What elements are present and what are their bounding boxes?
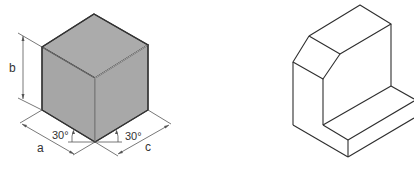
- dimension-b: b: [9, 33, 42, 110]
- isometric-cube: [42, 14, 148, 142]
- drawing-canvas: b a c 30° 30°: [0, 0, 414, 172]
- angle-right-label: 30°: [125, 130, 142, 142]
- label-b: b: [9, 61, 16, 75]
- label-c: c: [145, 140, 151, 154]
- label-a: a: [37, 141, 44, 155]
- l-shaped-block: [293, 5, 414, 157]
- angle-left-label: 30°: [52, 129, 69, 141]
